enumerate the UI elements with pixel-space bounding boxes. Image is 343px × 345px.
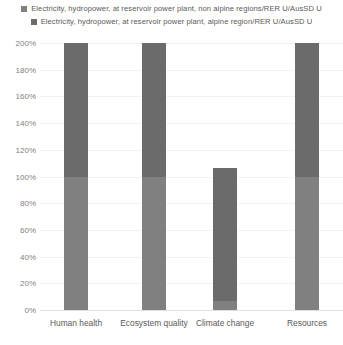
chart-legend: Electricity, hydropower, at reservoir po… <box>0 0 343 28</box>
y-axis-tick: 80% <box>20 199 36 208</box>
bar-segment-non-alpine[interactable] <box>213 301 237 310</box>
gridline-baseline <box>40 310 343 311</box>
bar-ecosystem-quality[interactable] <box>142 43 166 310</box>
bar-segment-non-alpine[interactable] <box>142 177 166 311</box>
y-axis-tick: 140% <box>16 119 36 128</box>
bar-segment-alpine[interactable] <box>213 168 237 302</box>
bar-segment-alpine[interactable] <box>64 43 88 177</box>
bar-resources[interactable] <box>295 43 319 310</box>
legend-item-label: Electricity, hydropower, at reservoir po… <box>41 17 313 26</box>
y-axis-tick: 200% <box>16 39 36 48</box>
y-axis-tick: 40% <box>20 252 36 261</box>
y-axis-tick: 20% <box>20 279 36 288</box>
x-axis-tick-climate-change: Climate change <box>196 318 254 328</box>
bars-layer <box>40 43 343 310</box>
bar-human-health[interactable] <box>64 43 88 310</box>
y-axis-tick: 60% <box>20 225 36 234</box>
x-axis-tick-resources: Resources <box>287 318 327 328</box>
y-axis-tick: 180% <box>16 65 36 74</box>
bar-climate-change[interactable] <box>213 43 237 310</box>
x-axis: Human health Ecosystem quality Climate c… <box>40 318 343 338</box>
y-axis: 200% 180% 160% 140% 120% 100% 80% 60% 40… <box>0 30 40 311</box>
bar-segment-alpine[interactable] <box>295 43 319 177</box>
square-marker-icon <box>21 6 27 12</box>
y-axis-tick: 0% <box>24 306 36 315</box>
x-axis-tick-ecosystem-quality: Ecosystem quality <box>120 318 188 328</box>
y-axis-tick: 160% <box>16 92 36 101</box>
chart-container: Electricity, hydropower, at reservoir po… <box>0 0 343 345</box>
legend-item-non-alpine[interactable]: Electricity, hydropower, at reservoir po… <box>0 2 343 15</box>
bar-segment-non-alpine[interactable] <box>64 177 88 311</box>
legend-item-label: Electricity, hydropower, at reservoir po… <box>31 4 322 13</box>
plot-area: 200% 180% 160% 140% 120% 100% 80% 60% 40… <box>0 30 343 345</box>
legend-item-alpine[interactable]: Electricity, hydropower, at reservoir po… <box>0 15 343 28</box>
x-axis-tick-human-health: Human health <box>50 318 102 328</box>
bar-segment-non-alpine[interactable] <box>295 177 319 311</box>
y-axis-tick: 120% <box>16 145 36 154</box>
y-axis-tick: 100% <box>16 172 36 181</box>
bar-segment-alpine[interactable] <box>142 43 166 177</box>
square-marker-icon <box>31 19 37 25</box>
